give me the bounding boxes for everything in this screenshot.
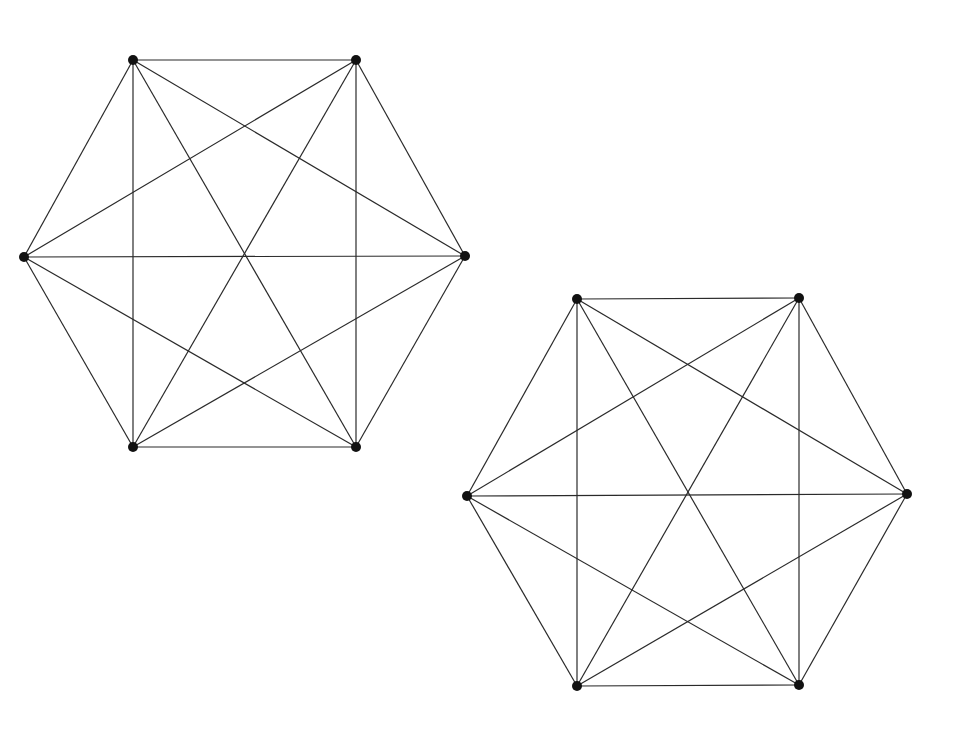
vertex-b: [351, 55, 361, 65]
vertex-e: [128, 442, 138, 452]
edge-c-d: [799, 494, 907, 685]
edge-b-c: [799, 298, 907, 494]
edge-e-f: [467, 496, 577, 686]
edge-d-f: [24, 257, 356, 447]
vertex-a: [572, 294, 582, 304]
vertex-f: [19, 252, 29, 262]
edge-b-c: [356, 60, 465, 256]
vertex-c: [902, 489, 912, 499]
edge-a-f: [24, 60, 133, 257]
complete-graph-k6-right: [462, 293, 912, 691]
edge-c-e: [577, 494, 907, 686]
edge-d-f: [467, 496, 799, 685]
vertex-d: [351, 442, 361, 452]
vertex-f: [462, 491, 472, 501]
edge-d-e: [577, 685, 799, 686]
edge-b-f: [24, 60, 356, 257]
vertex-c: [460, 251, 470, 261]
edge-c-f: [24, 256, 465, 257]
edge-e-f: [24, 257, 133, 447]
vertex-e: [572, 681, 582, 691]
edge-a-b: [577, 298, 799, 299]
vertex-b: [794, 293, 804, 303]
graph-canvas: [0, 0, 972, 745]
edge-b-f: [467, 298, 799, 496]
vertex-a: [128, 55, 138, 65]
edge-c-e: [133, 256, 465, 447]
edge-a-f: [467, 299, 577, 496]
vertex-d: [794, 680, 804, 690]
edge-c-d: [356, 256, 465, 447]
complete-graph-k6-left: [19, 55, 470, 452]
